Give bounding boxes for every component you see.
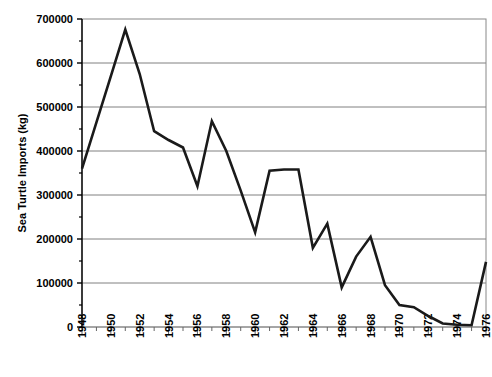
x-tick-label: 1968 bbox=[365, 314, 377, 338]
x-tick-label: 1960 bbox=[249, 314, 261, 338]
plot-area-background bbox=[82, 19, 486, 327]
x-tick-label: 1952 bbox=[134, 314, 146, 338]
y-tick-label: 700000 bbox=[36, 13, 73, 25]
x-tick-label: 1962 bbox=[278, 314, 290, 338]
y-axis-ticks: 0100000200000300000400000500000600000700… bbox=[36, 13, 82, 333]
chart-container: 0100000200000300000400000500000600000700… bbox=[0, 0, 492, 377]
x-tick-label: 1966 bbox=[336, 314, 348, 338]
y-axis-title: Sea Turtle Imports (kg) bbox=[16, 113, 28, 232]
y-tick-label: 0 bbox=[67, 321, 73, 333]
x-tick-label: 1948 bbox=[76, 314, 88, 338]
y-tick-label: 200000 bbox=[36, 233, 73, 245]
x-tick-label: 1970 bbox=[393, 314, 405, 338]
x-tick-label: 1976 bbox=[480, 314, 492, 338]
x-tick-label: 1964 bbox=[307, 313, 319, 338]
y-tick-label: 100000 bbox=[36, 277, 73, 289]
x-tick-label: 1958 bbox=[220, 314, 232, 338]
y-tick-label: 400000 bbox=[36, 145, 73, 157]
x-tick-label: 1956 bbox=[191, 314, 203, 338]
x-tick-label: 1950 bbox=[105, 314, 117, 338]
x-tick-label: 1954 bbox=[163, 313, 175, 338]
y-tick-label: 500000 bbox=[36, 101, 73, 113]
y-tick-label: 600000 bbox=[36, 57, 73, 69]
y-tick-label: 300000 bbox=[36, 189, 73, 201]
line-chart: 0100000200000300000400000500000600000700… bbox=[0, 0, 492, 377]
